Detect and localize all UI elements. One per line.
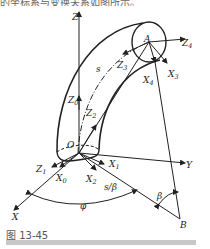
svg-text:B: B — [179, 220, 187, 230]
svg-text:s/β: s/β — [104, 182, 117, 192]
svg-text:Z3: Z3 — [116, 60, 127, 72]
svg-text:X2: X2 — [85, 174, 97, 186]
svg-text:X4: X4 — [142, 75, 154, 87]
svg-text:A: A — [143, 34, 151, 44]
svg-text:Z2: Z2 — [85, 108, 96, 120]
svg-text:β: β — [156, 191, 162, 201]
svg-text:Z0: Z0 — [67, 95, 78, 107]
svg-text:X: X — [11, 212, 19, 222]
svg-text:Z: Z — [71, 12, 79, 22]
svg-text:φ: φ — [80, 201, 87, 211]
svg-text:X1: X1 — [108, 159, 120, 171]
svg-text:O: O — [67, 140, 75, 150]
svg-text:X3: X3 — [167, 69, 179, 81]
svg-text:Z4: Z4 — [181, 38, 192, 50]
svg-text:s: s — [96, 64, 101, 74]
svg-text:X0: X0 — [55, 173, 67, 185]
coordinate-diagram: Z Y X O A B s s/β β φ Z0 Z1 Z2 Z3 Z4 X0 … — [0, 0, 210, 249]
svg-text:Z1: Z1 — [35, 164, 46, 176]
svg-text:Y: Y — [186, 160, 193, 170]
caption-underline-bar — [6, 240, 196, 245]
